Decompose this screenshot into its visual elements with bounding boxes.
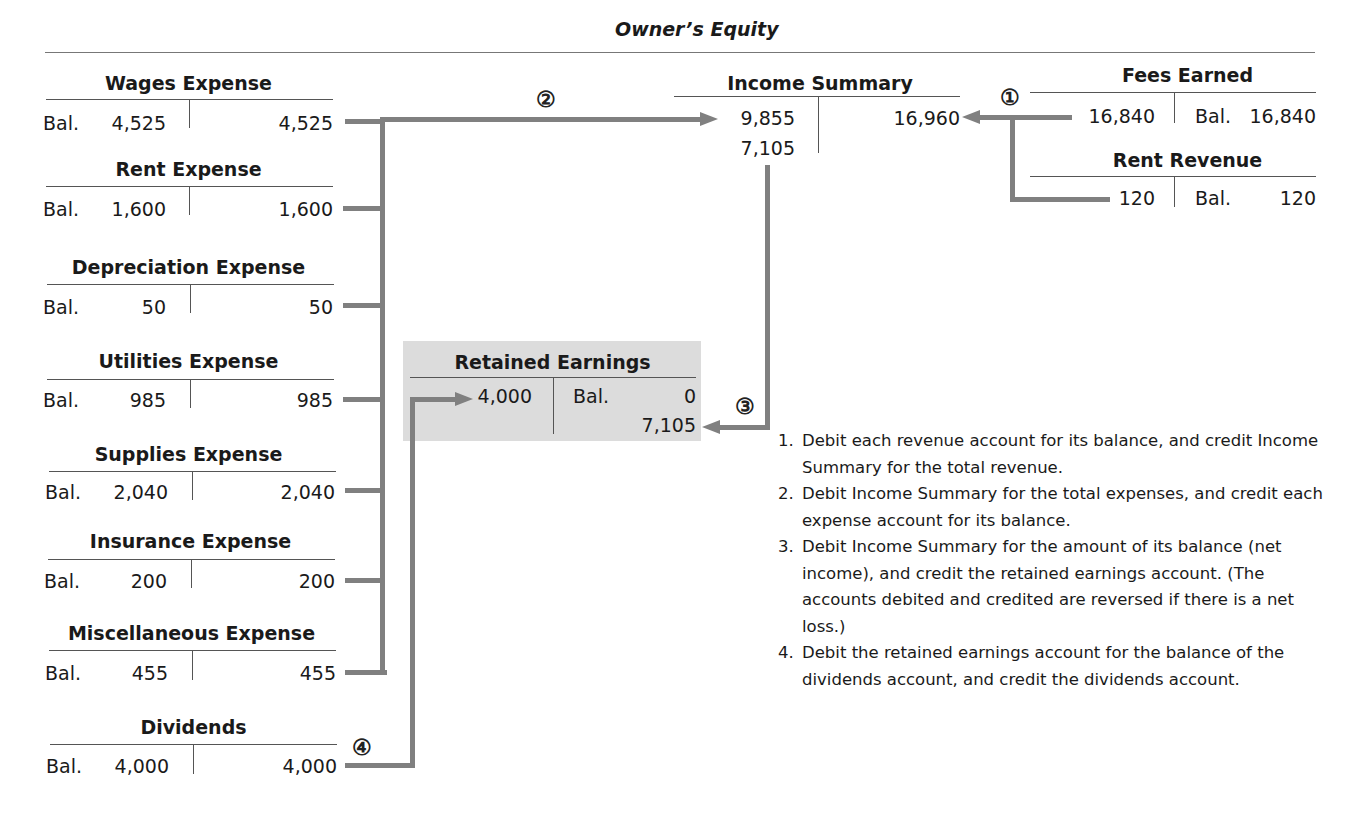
credit-amount: 985: [230, 389, 333, 411]
note-number: 4.: [778, 640, 802, 693]
credit-amount: 16,840: [1240, 105, 1316, 127]
note-number: 2.: [778, 481, 802, 534]
account-title: Utilities Expense: [45, 350, 332, 372]
account-title: Supplies Expense: [45, 443, 332, 465]
t-divider: [190, 380, 191, 408]
arrowhead-right-icon: [455, 392, 473, 406]
bal-label: Bal.: [573, 385, 609, 407]
t-divider: [818, 97, 819, 153]
debit-amount: 4,000: [100, 755, 169, 777]
note-item: 3. Debit Income Summary for the amount o…: [778, 534, 1338, 640]
bal-label: Bal.: [44, 570, 80, 592]
debit-amount-2: 7,105: [720, 137, 795, 159]
credit-amount-1: 0: [620, 385, 696, 407]
credit-amount: 50: [230, 296, 333, 318]
owners-equity-title: Owner’s Equity: [615, 18, 779, 40]
t-rule: [1030, 92, 1316, 93]
note-number: 1.: [778, 428, 802, 481]
bal-label: Bal.: [46, 755, 82, 777]
t-divider: [553, 378, 554, 434]
account-title: Income Summary: [690, 72, 950, 94]
t-divider: [189, 187, 190, 215]
t-divider: [1174, 93, 1175, 123]
debit-amount: 455: [100, 662, 168, 684]
credit-amount: 16,960: [870, 107, 960, 129]
bal-label: Bal.: [43, 296, 79, 318]
bal-label: Bal.: [43, 198, 79, 220]
credit-amount: 2,040: [232, 481, 335, 503]
debit-amount: 200: [100, 570, 167, 592]
t-divider: [189, 100, 190, 128]
t-divider: [191, 560, 192, 588]
account-title: Wages Expense: [45, 72, 332, 94]
account-title: Fees Earned: [1060, 64, 1315, 86]
bal-label: Bal.: [1195, 105, 1231, 127]
t-divider: [192, 472, 193, 500]
account-title: Retained Earnings: [410, 351, 695, 373]
account-title: Depreciation Expense: [45, 256, 332, 278]
t-rule: [1030, 176, 1316, 177]
step-marker-1: ①: [1000, 84, 1020, 110]
account-title: Insurance Expense: [47, 530, 334, 552]
account-title: Rent Revenue: [1060, 149, 1315, 171]
debit-amount: 1,600: [100, 198, 166, 220]
credit-amount: 200: [232, 570, 335, 592]
note-text: Debit each revenue account for its balan…: [802, 428, 1338, 481]
t-divider: [193, 745, 194, 774]
account-title: Dividends: [50, 716, 337, 738]
credit-amount: 4,525: [230, 112, 333, 134]
note-text: Debit the retained earnings account for …: [802, 640, 1338, 693]
step-marker-3: ③: [735, 393, 755, 419]
note-number: 3.: [778, 534, 802, 640]
credit-amount: 455: [232, 662, 336, 684]
header-rule: [45, 52, 1315, 53]
t-divider: [192, 651, 193, 680]
step-marker-2: ②: [536, 86, 556, 112]
credit-amount-2: 7,105: [620, 414, 696, 436]
step-marker-4: ④: [352, 734, 372, 760]
t-rule: [674, 96, 960, 97]
arrowhead-right-icon: [700, 112, 718, 126]
bal-label: Bal.: [45, 662, 81, 684]
t-divider: [1174, 177, 1175, 207]
debit-amount: 16,840: [1070, 105, 1155, 127]
credit-amount: 4,000: [232, 755, 337, 777]
bal-label: Bal.: [43, 389, 79, 411]
credit-amount: 120: [1240, 187, 1316, 209]
account-title: Rent Expense: [45, 158, 332, 180]
note-item: 1. Debit each revenue account for its ba…: [778, 428, 1338, 481]
debit-amount: 985: [100, 389, 166, 411]
debit-amount: 4,525: [100, 112, 166, 134]
closing-steps-notes: 1. Debit each revenue account for its ba…: [778, 428, 1338, 693]
bal-label: Bal.: [1195, 187, 1231, 209]
bal-label: Bal.: [45, 481, 81, 503]
debit-amount-1: 9,855: [720, 107, 795, 129]
credit-amount: 1,600: [230, 198, 333, 220]
note-text: Debit Income Summary for the amount of i…: [802, 534, 1338, 640]
arrowhead-left-icon: [702, 420, 720, 434]
bal-label: Bal.: [43, 112, 79, 134]
account-title: Miscellaneous Expense: [48, 622, 335, 644]
note-text: Debit Income Summary for the total expen…: [802, 481, 1338, 534]
note-item: 4. Debit the retained earnings account f…: [778, 640, 1338, 693]
note-item: 2. Debit Income Summary for the total ex…: [778, 481, 1338, 534]
debit-amount: 50: [100, 296, 166, 318]
t-divider: [190, 285, 191, 313]
debit-amount: 2,040: [100, 481, 168, 503]
arrowhead-left-icon: [962, 110, 980, 124]
